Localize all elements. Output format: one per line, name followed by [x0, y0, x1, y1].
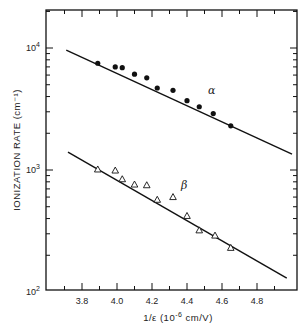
x-axis-ticks: 3.84.04.24.44.64.8: [65, 10, 275, 306]
alpha-data-point: [120, 65, 125, 70]
beta-data-point: [196, 227, 203, 233]
beta-data-point: [94, 166, 101, 172]
x-axis-label: 1/ε (10-6 cm/V): [143, 311, 213, 323]
beta-data-point: [170, 194, 177, 200]
x-tick-label: 4.2: [146, 296, 159, 306]
x-tick-label: 4.8: [251, 296, 264, 306]
y-axis-label: IONIZATION RATE (cm⁻¹): [11, 89, 22, 211]
beta-data-point: [184, 212, 191, 218]
alpha-data-point: [155, 85, 160, 90]
y-tick-label: 103: [26, 163, 40, 175]
beta-label: β: [180, 179, 187, 192]
y-tick-label: 102: [26, 285, 40, 297]
alpha-data-point: [197, 104, 202, 109]
plot-frame: [46, 10, 297, 290]
beta-data-point: [119, 176, 126, 182]
fit-lines: [66, 50, 292, 278]
alpha-data-point: [170, 88, 175, 93]
x-tick-label: 4.0: [111, 296, 124, 306]
alpha-data-point: [144, 75, 149, 80]
alpha-data-point: [132, 72, 137, 77]
beta-data-point: [112, 167, 119, 173]
alpha-label: α: [208, 84, 216, 97]
alpha-data-point: [95, 61, 100, 66]
fit-line-alpha: [66, 50, 292, 154]
beta-data-point: [143, 182, 150, 188]
y-tick-label: 104: [26, 41, 40, 53]
y-axis-ticks: 102103104: [26, 11, 297, 297]
alpha-data-point: [184, 98, 189, 103]
beta-data-point: [154, 196, 161, 202]
x-tick-label: 3.8: [76, 296, 89, 306]
alpha-data-point: [211, 111, 216, 116]
alpha-data-point: [113, 64, 118, 69]
x-tick-label: 4.6: [216, 296, 229, 306]
x-tick-label: 4.4: [181, 296, 194, 306]
alpha-data-point: [228, 123, 233, 128]
beta-data-point: [131, 181, 138, 187]
ionization-rate-chart: 102103104 3.84.04.24.44.64.8 α β IONIZAT…: [0, 0, 305, 331]
